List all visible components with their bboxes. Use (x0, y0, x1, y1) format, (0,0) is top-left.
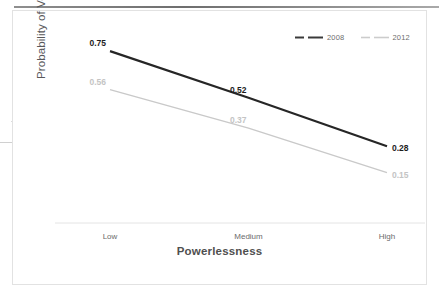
x-tick-high: High (379, 232, 395, 241)
page-top-divider (14, 6, 439, 8)
data-label-2012-Low: 0.56 (89, 77, 106, 87)
chart-card: Probability of Voting 2008 2012 0.750.52… (12, 10, 427, 285)
plot-area: 0.750.520.280.560.370.15 (55, 27, 425, 227)
data-label-2008-Low: 0.75 (89, 38, 106, 48)
data-label-2012-High: 0.15 (392, 170, 409, 180)
data-label-2008-High: 0.28 (392, 143, 409, 153)
data-label-2008-Medium: 0.52 (230, 85, 247, 95)
data-label-2012-Medium: 0.37 (230, 115, 247, 125)
x-axis-tick-labels: LowMediumHigh (55, 232, 425, 246)
x-tick-medium: Medium (234, 232, 262, 241)
y-axis-title: Probability of Voting (35, 0, 51, 79)
line-chart-svg: 0.750.520.280.560.370.15 (55, 27, 425, 227)
series-layer (110, 51, 387, 173)
x-tick-low: Low (103, 232, 118, 241)
series-line-2008 (110, 51, 387, 146)
x-axis-title: Powerlessness (0, 245, 439, 257)
